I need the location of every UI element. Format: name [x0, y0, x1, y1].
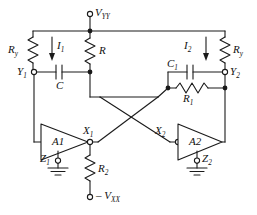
resistor-r [85, 38, 95, 64]
label-c1: C1 [167, 58, 178, 72]
label-ry-right: Ry [233, 44, 243, 58]
label-i1: I1 [57, 40, 64, 54]
current-arrow-i2-head [203, 53, 209, 61]
label-x1: X1 [83, 125, 93, 139]
label-ry-left: Ry [8, 44, 18, 58]
terminal-z2[interactable] [194, 158, 199, 163]
wire-cross-right-to-x1 [98, 97, 158, 142]
label-a2: A2 [189, 136, 201, 147]
terminal-y2[interactable] [222, 69, 227, 74]
label-vxx: – VXX [96, 190, 120, 204]
label-z2: Z2 [202, 153, 212, 167]
resistor-ry-left [28, 37, 38, 63]
label-c: C [56, 80, 63, 91]
terminal-vxx[interactable] [87, 194, 92, 199]
label-r1: R1 [183, 93, 193, 107]
circuit-diagram: VYY Ry I1 R I2 Ry Y1 C C1 Y2 R1 A1 X1 Z1… [0, 0, 257, 215]
label-a1: A1 [52, 136, 64, 147]
label-y1: Y1 [17, 66, 27, 80]
label-i2: I2 [184, 40, 191, 54]
current-arrow-i1-head [49, 53, 55, 61]
resistor-r1 [176, 83, 208, 93]
wire-right-node-jog [158, 88, 168, 97]
label-r2: R2 [98, 163, 108, 177]
terminal-z1[interactable] [55, 158, 60, 163]
label-r-top: R [99, 45, 106, 56]
label-z1: Z1 [40, 153, 50, 167]
schematic-canvas [0, 0, 257, 215]
terminal-x1[interactable] [87, 139, 92, 144]
terminal-vyy[interactable] [87, 11, 92, 16]
terminal-y1[interactable] [31, 69, 36, 74]
label-y2: Y2 [230, 66, 240, 80]
resistor-r2 [85, 155, 95, 181]
label-vyy: VYY [95, 7, 110, 21]
label-x2: X2 [155, 125, 165, 139]
resistor-ry-right [220, 37, 230, 63]
